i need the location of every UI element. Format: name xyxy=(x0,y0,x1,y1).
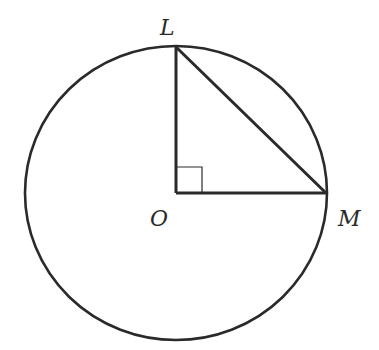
point-label-m: M xyxy=(337,206,361,231)
circle-diagram: L O M xyxy=(0,0,379,350)
point-label-l: L xyxy=(159,15,175,40)
right-angle-marker xyxy=(176,167,202,193)
chord-lm xyxy=(176,47,326,193)
point-label-o: O xyxy=(150,206,168,231)
